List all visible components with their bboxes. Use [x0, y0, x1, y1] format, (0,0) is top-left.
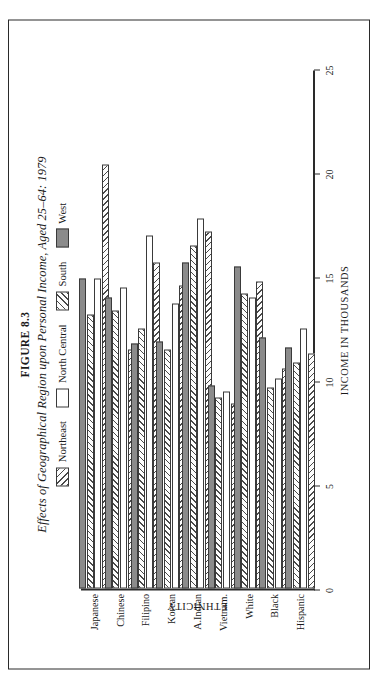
bar [94, 279, 101, 589]
bar [190, 245, 197, 588]
bar [234, 266, 241, 588]
category-label: Korean [166, 593, 177, 623]
category-label: Filipino [140, 593, 151, 625]
figure-title: Effects of Geographical Region upon Pers… [35, 20, 50, 668]
legend-swatch-icon [56, 467, 69, 486]
bar [164, 349, 171, 588]
bar [267, 387, 274, 589]
bar [249, 297, 256, 588]
legend-swatch-icon [56, 388, 69, 407]
bar [223, 391, 230, 589]
figure-frame: FIGURE 8.3 Effects of Geographical Regio… [8, 19, 370, 669]
value-axis-tick-label: 5 [324, 484, 335, 489]
value-axis-title: INCOME IN THOUSANDS [339, 70, 350, 590]
bar [182, 262, 189, 589]
category-label: Japanese [88, 593, 99, 629]
value-axis-tick-label: 10 [324, 377, 335, 387]
legend-item-north-central: North Central [56, 324, 69, 407]
bar [300, 328, 307, 588]
legend-label: South [57, 261, 68, 286]
value-axis-tick [314, 173, 320, 174]
bar [105, 297, 112, 588]
legend-item-south: South [56, 261, 69, 310]
bar [241, 293, 248, 588]
value-axis-tick [314, 277, 320, 278]
bar [172, 303, 179, 588]
bar [285, 347, 292, 588]
bar [215, 397, 222, 588]
bar [120, 287, 127, 589]
value-axis-tick [314, 589, 320, 590]
category-label: Chinese [114, 593, 125, 626]
bar-group: Hispanic [285, 68, 315, 588]
bar [79, 279, 86, 589]
category-label: Hispanic [295, 593, 306, 629]
bar [131, 343, 138, 588]
bar [197, 218, 204, 588]
category-label: Vietnam. [217, 593, 228, 630]
legend-label: West [57, 202, 68, 223]
figure-number: FIGURE 8.3 [19, 20, 31, 668]
value-axis-tick [314, 381, 320, 382]
bar [156, 341, 163, 589]
category-label: White [243, 593, 254, 618]
legend-swatch-icon [56, 291, 69, 310]
legend-item-west: West [56, 202, 69, 247]
bar [87, 314, 94, 589]
bar [208, 385, 215, 589]
value-axis-tick-label: 25 [324, 65, 335, 75]
figure-page: FIGURE 8.3 Effects of Geographical Regio… [0, 0, 380, 685]
bar [146, 235, 153, 589]
legend-swatch-icon [56, 228, 69, 247]
value-axis-tick-label: 0 [324, 588, 335, 593]
value-axis-tick [314, 485, 320, 486]
bar [308, 353, 315, 588]
bar [138, 328, 145, 588]
category-label: A.Indian [191, 593, 202, 629]
legend-label: Northeast [57, 421, 68, 462]
value-axis-tick-label: 20 [324, 169, 335, 179]
value-axis-tick [314, 69, 320, 70]
value-axis-tick-label: 15 [324, 273, 335, 283]
legend-item-northeast: Northeast [56, 421, 69, 486]
bar [112, 310, 119, 589]
chart-legend: NortheastNorth CentralSouthWest [56, 20, 69, 668]
legend-label: North Central [57, 324, 68, 383]
bar [293, 362, 300, 589]
chart-plot-area: ETHNICITY JapaneseChineseFilipinoKoreanA… [81, 70, 313, 590]
bar [259, 337, 266, 589]
bar [275, 378, 282, 588]
category-label: Black [269, 593, 280, 617]
